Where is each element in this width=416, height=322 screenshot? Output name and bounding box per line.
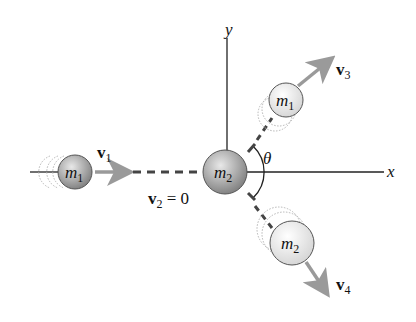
v3-arrow: [298, 60, 330, 86]
v2-label: v2 = 0: [148, 189, 189, 211]
v3-label: v3: [336, 60, 351, 82]
v1-label: v1: [97, 143, 112, 165]
y-axis-label: y: [223, 20, 233, 39]
theta-tick-upper: [248, 144, 255, 152]
collision-diagram: y x m1 v1 v2 = 0 m2 θ m1 v3 m2 v4: [0, 0, 416, 322]
v4-label: v4: [336, 275, 351, 297]
v4-arrow: [306, 262, 326, 292]
x-axis-label: x: [386, 162, 395, 181]
theta-label: θ: [263, 149, 271, 168]
